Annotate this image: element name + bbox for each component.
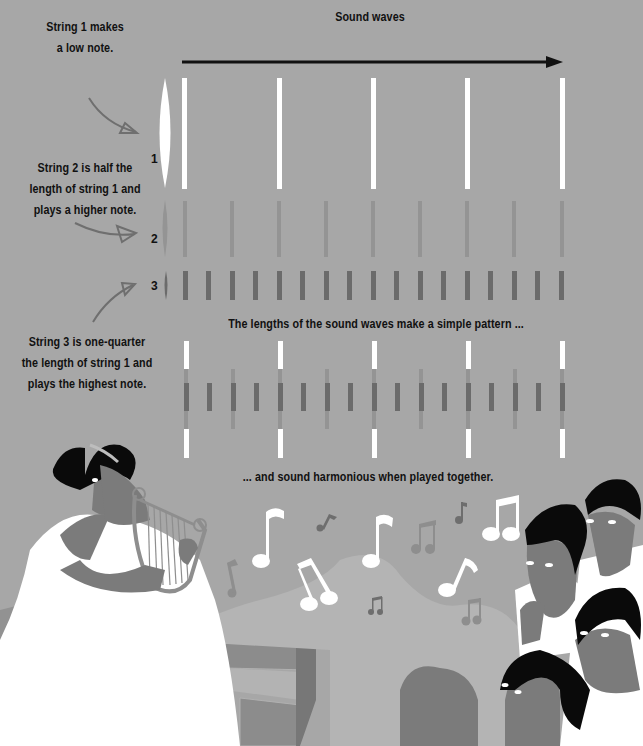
annotation-string-3: String 3 is one-quarter the length of st…: [14, 332, 160, 395]
arrow-string2-icon: [75, 223, 136, 242]
annotation-string-1: String 1 makes a low note.: [29, 17, 141, 59]
string-2-waves: [183, 201, 564, 257]
harmony-illustration: Sound waves: [0, 0, 643, 746]
lyre-player-figure: [0, 444, 240, 746]
arrow-string3-icon: [93, 283, 135, 322]
string-number-3: 3: [151, 279, 158, 293]
arrow-string1-icon: [89, 98, 137, 133]
note-grey-2: [227, 559, 238, 598]
sound-waves-arrow: [182, 56, 563, 68]
note-white-5: [438, 558, 478, 597]
note-dark-1: [317, 514, 338, 532]
string-1-vibration: [160, 78, 171, 188]
string-1-waves: [182, 78, 565, 189]
note-dark-2: [455, 502, 467, 524]
caption-pattern: The lengths of the sound waves make a si…: [213, 314, 540, 335]
string-2-vibration: [163, 200, 168, 257]
combined-waves: [184, 341, 565, 458]
note-white-2: [362, 515, 393, 568]
note-white-3: [482, 495, 520, 541]
string-number-1: 1: [151, 152, 158, 166]
string-number-2: 2: [151, 232, 158, 246]
annotation-string-2: String 2 is half the length of string 1 …: [16, 158, 154, 221]
note-grey-1: [411, 520, 436, 554]
string-3-vibration: [165, 271, 168, 300]
note-white-1: [252, 508, 284, 568]
caption-harmony: ... and sound harmonious when played tog…: [239, 467, 497, 488]
string-3-waves: [183, 271, 564, 300]
